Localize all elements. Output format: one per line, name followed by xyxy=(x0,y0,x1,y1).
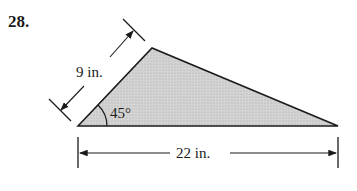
side-tick-top xyxy=(123,19,145,41)
base-label: 22 in. xyxy=(176,145,210,161)
triangle-diagram: 45° 9 in. 22 in. xyxy=(0,0,357,191)
side-dim-arrow-up xyxy=(110,31,133,57)
side-label: 9 in. xyxy=(76,64,103,80)
side-dim-arrow-down xyxy=(61,86,84,110)
angle-label: 45° xyxy=(110,105,131,121)
